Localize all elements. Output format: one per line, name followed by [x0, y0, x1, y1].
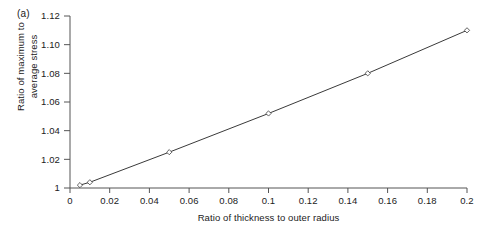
x-tick-label: 0.16 — [378, 195, 397, 206]
x-tick-label: 0.12 — [299, 195, 318, 206]
x-tick-label: 0.02 — [100, 195, 119, 206]
y-tick-label: 1 — [55, 182, 60, 193]
x-tick-label: 0.18 — [418, 195, 437, 206]
data-point-marker — [167, 150, 172, 155]
figure-panel: (a) Ratio of maximum to average stress 1… — [0, 0, 485, 236]
y-axis-tick-labels: 11.021.041.061.081.101.12 — [41, 10, 60, 193]
x-tick-label: 0.08 — [219, 195, 238, 206]
y-tick-label: 1.06 — [41, 96, 60, 107]
x-axis-title: Ratio of thickness to outer radius — [70, 212, 467, 223]
x-axis-ticks — [70, 188, 467, 193]
x-tick-label: 0 — [67, 195, 72, 206]
data-point-marker — [87, 180, 92, 185]
x-tick-label: 0.1 — [262, 195, 276, 206]
y-tick-label: 1.08 — [41, 68, 60, 79]
data-series-line — [80, 30, 467, 185]
data-point-marker — [266, 111, 271, 116]
x-tick-label: 0.04 — [140, 195, 159, 206]
data-point-marker — [77, 183, 82, 188]
x-tick-label: 0.2 — [460, 195, 474, 206]
y-tick-label: 1.04 — [41, 125, 60, 136]
x-tick-label: 0.06 — [180, 195, 199, 206]
y-tick-label: 1.02 — [41, 154, 60, 165]
data-point-markers — [77, 28, 469, 188]
line-chart: 11.021.041.061.081.101.12 00.020.040.060… — [0, 0, 485, 236]
y-tick-label: 1.12 — [41, 10, 60, 21]
x-axis-tick-labels: 00.020.040.060.080.10.120.140.160.180.2 — [67, 195, 473, 206]
data-point-marker — [365, 71, 370, 76]
y-tick-label: 1.10 — [41, 39, 60, 50]
x-tick-label: 0.14 — [338, 195, 357, 206]
data-point-marker — [464, 28, 469, 33]
y-axis-ticks — [64, 16, 70, 188]
